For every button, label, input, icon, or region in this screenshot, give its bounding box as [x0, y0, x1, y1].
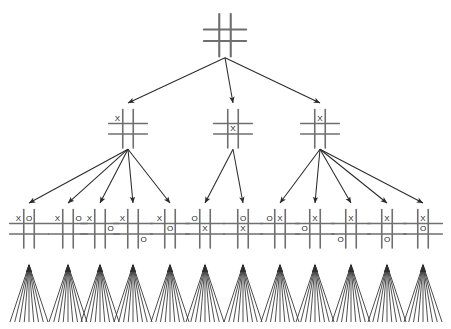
- cell-mark-x: X: [120, 214, 126, 223]
- fan-4: [114, 264, 152, 323]
- fan-12: [404, 264, 442, 323]
- cell-mark-o: O: [191, 214, 197, 223]
- edge-n1-corner-to-n2-1: [29, 149, 128, 203]
- fan-2: [49, 264, 87, 323]
- cell-mark-o: O: [26, 214, 32, 223]
- tree-edges: [29, 58, 423, 203]
- board-x-top-left-o-center: XO: [151, 209, 190, 248]
- board-x-top-middle-o-bottom-middle: XO: [368, 209, 407, 248]
- board-o-top-left-x-top-middle: OX: [261, 209, 300, 248]
- cell-mark-o: O: [75, 214, 81, 223]
- fan-8: [261, 264, 299, 323]
- cell-mark-o: O: [301, 224, 307, 233]
- cell-mark-x: X: [202, 224, 208, 233]
- leaf-fans: [10, 264, 442, 323]
- edge-n1-edge-to-n2-9: [315, 149, 320, 203]
- board-o-top-left-x-center: OX: [186, 209, 225, 248]
- cell-mark-o: O: [384, 235, 390, 244]
- edge-n1-center-to-n2-7: [233, 149, 243, 203]
- cell-mark-o: O: [266, 214, 272, 223]
- cell-mark-x: X: [115, 114, 121, 123]
- edge-n1-corner-to-n2-2: [68, 149, 128, 203]
- edge-n1-center-to-n2-6: [205, 149, 233, 203]
- board-x-top-left-o-top-right: XO: [49, 209, 88, 248]
- fan-5: [151, 264, 189, 323]
- cell-mark-x: X: [16, 214, 22, 223]
- cell-mark-x: X: [240, 224, 246, 233]
- edge-n1-corner-to-n2-4: [128, 149, 133, 203]
- fan-3: [81, 264, 119, 323]
- edge-root-to-n1-center: [225, 58, 233, 103]
- cell-mark-x: X: [317, 114, 323, 123]
- cell-mark-x: X: [157, 214, 163, 223]
- cell-mark-x: X: [312, 214, 318, 223]
- fan-1: [10, 264, 48, 323]
- cell-mark-o: O: [167, 224, 173, 233]
- cell-mark-x: X: [230, 124, 236, 133]
- cell-mark-o: O: [240, 214, 246, 223]
- board-o-top-middle-x-center: OX: [224, 209, 263, 248]
- edge-root-to-n1-corner: [128, 58, 225, 103]
- board-x-top-left-o-bottom-right: XO: [114, 209, 153, 248]
- fan-6: [186, 264, 224, 323]
- edge-n1-edge-to-n2-11: [320, 149, 387, 203]
- board-x-top-left-o-middle-right: XO: [81, 209, 120, 248]
- board-empty-board: [204, 14, 246, 56]
- tree-svg-canvas: XXXXOXOXOXOXOOXOXOXXOXOXOXO: [0, 0, 451, 329]
- cell-mark-x: X: [384, 214, 390, 223]
- cell-mark-o: O: [337, 235, 343, 244]
- fan-7: [224, 264, 262, 323]
- board-x-top-middle: X: [301, 109, 340, 148]
- fan-11: [368, 264, 406, 323]
- board-x-top-left: X: [109, 109, 148, 148]
- board-x-top-middle-o-center: XO: [404, 209, 443, 248]
- board-x-center: X: [214, 109, 253, 148]
- board-x-top-middle-o-bottom-left: XO: [332, 209, 371, 248]
- game-tree-diagram: XXXXOXOXOXOXOOXOXOXXOXOXOXO: [0, 0, 451, 329]
- cell-mark-x: X: [55, 214, 61, 223]
- cell-mark-x: X: [420, 214, 426, 223]
- board-x-top-middle-o-middle-left: XO: [296, 209, 335, 248]
- fan-9: [296, 264, 334, 323]
- cell-mark-x: X: [277, 214, 283, 223]
- cell-mark-x: X: [87, 214, 93, 223]
- edge-root-to-n1-edge: [225, 58, 320, 103]
- cell-mark-o: O: [140, 235, 146, 244]
- edge-n1-edge-to-n2-8: [280, 149, 320, 203]
- tree-nodes: XXXXOXOXOXOXOOXOXOXXOXOXOXO: [10, 14, 443, 248]
- edge-n1-corner-to-n2-5: [128, 149, 170, 203]
- board-x-top-left-o-top-middle: XO: [10, 209, 49, 248]
- cell-mark-o: O: [107, 224, 113, 233]
- cell-mark-o: O: [420, 224, 426, 233]
- cell-mark-x: X: [348, 214, 354, 223]
- fan-10: [332, 264, 370, 323]
